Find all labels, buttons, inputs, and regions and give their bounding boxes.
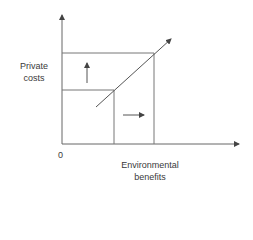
x-axis-label-line2: benefits [110, 171, 190, 183]
cost-benefit-curve [96, 39, 171, 107]
y-axis-label-line1: Private [10, 60, 58, 72]
y-axis-label: Private costs [10, 60, 58, 84]
x-axis-label: Environmental benefits [110, 159, 190, 183]
origin-label: 0 [58, 149, 63, 161]
y-axis-label-line2: costs [10, 72, 58, 84]
x-axis-label-line1: Environmental [110, 159, 190, 171]
